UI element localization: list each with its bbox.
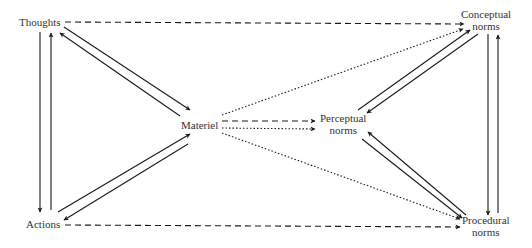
node-thoughts-label: Thoughts	[19, 16, 61, 28]
edge-procedural-to-perceptual	[368, 132, 466, 215]
node-materiel: Materiel	[181, 119, 218, 131]
node-perceptual-line1: Perceptual	[320, 112, 366, 124]
edge-actions-to-procedural	[65, 225, 460, 227]
node-perceptual-line2: norms	[320, 124, 366, 136]
diagram-canvas	[0, 0, 532, 248]
edge-thoughts-to-conceptual	[65, 22, 464, 24]
node-actions-label: Actions	[26, 218, 60, 230]
node-procedural-line1: Procedural	[462, 214, 510, 226]
node-thoughts: Thoughts	[19, 16, 61, 28]
edge-materiel-to-conceptual	[222, 29, 463, 115]
node-conceptual-line1: Conceptual	[461, 8, 511, 20]
edge-materiel-to-thoughts	[60, 33, 180, 116]
node-materiel-label: Materiel	[181, 119, 218, 131]
edge-conceptual-to-perceptual	[367, 34, 478, 113]
node-procedural-norms: Procedural norms	[462, 214, 510, 238]
node-actions: Actions	[26, 218, 60, 230]
edge-materiel-to-perceptual-dotted	[222, 128, 315, 129]
node-conceptual-line2: norms	[461, 20, 511, 32]
node-perceptual-norms: Perceptual norms	[320, 112, 366, 136]
node-procedural-line2: norms	[462, 226, 510, 238]
node-conceptual-norms: Conceptual norms	[461, 8, 511, 32]
edge-thoughts-to-materiel	[64, 27, 190, 110]
edge-materiel-to-procedural	[222, 133, 460, 219]
edge-materiel-to-actions	[64, 144, 188, 220]
edge-perceptual-to-procedural	[362, 139, 462, 218]
edge-perceptual-to-conceptual	[358, 30, 470, 110]
edge-actions-to-materiel	[58, 134, 190, 212]
